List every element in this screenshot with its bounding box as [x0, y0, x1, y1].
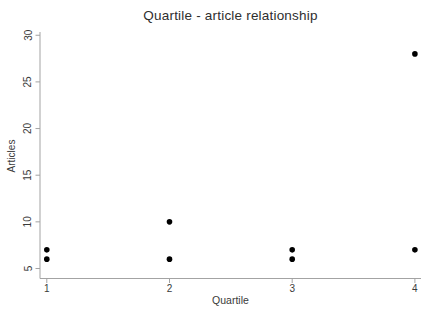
data-point: [289, 247, 295, 253]
y-tick-label: 25: [23, 76, 34, 88]
y-tick-label: 5: [23, 265, 34, 271]
x-tick-label: 4: [412, 283, 418, 294]
x-tick-label: 3: [289, 283, 295, 294]
data-point: [289, 256, 295, 262]
y-tick-label: 30: [23, 29, 34, 41]
plot-area: 510152025301234: [0, 0, 435, 316]
data-point: [167, 256, 173, 262]
x-tick-label: 2: [167, 283, 173, 294]
data-point: [412, 247, 418, 253]
y-tick-label: 20: [23, 123, 34, 135]
x-tick-label: 1: [44, 283, 50, 294]
y-tick-label: 15: [23, 169, 34, 181]
scatter-figure: Quartile - article relationship Articles…: [0, 0, 435, 316]
data-point: [412, 51, 418, 57]
data-point: [44, 256, 50, 262]
y-tick-label: 10: [23, 216, 34, 228]
data-point: [44, 247, 50, 253]
data-point: [167, 219, 173, 225]
